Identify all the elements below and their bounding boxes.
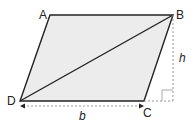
base-label: b [79,109,86,123]
right-angle-marker [162,90,173,101]
parallelogram-diagram: A B C D h b [0,0,194,126]
vertex-label-a: A [39,8,47,22]
height-label: h [179,51,186,65]
arrow-left-icon [20,104,25,109]
vertex-label-b: B [176,8,184,22]
vertex-label-d: D [7,94,16,108]
vertex-label-c: C [143,106,152,120]
